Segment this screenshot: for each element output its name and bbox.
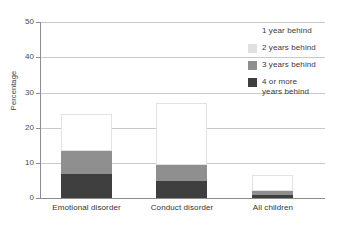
legend-label-4-or-more-years-behind: 4 or more years behind [262,77,309,96]
x-label-emotional-disorder: Emotional disorder [36,203,137,212]
legend-item-2-years-behind: 2 years behind [248,43,316,60]
y-tick-label-0: 0 [12,193,34,202]
legend-label-line1: 4 or more [262,77,297,86]
bar-all-children [252,175,293,198]
bar-segment-4-or-more-years-behind [156,181,207,198]
x-label-all-children: All children [232,203,314,212]
legend-swatch-4-or-more-years-behind [248,78,257,87]
y-tick-label-50: 50 [12,17,34,26]
legend-item-1-year-behind: 1 year behind [248,26,316,43]
bar-segment-1-year-behind [252,175,293,191]
stacked-bar-chart: Percentage 50 40 30 20 10 0 Emotional di… [0,0,337,234]
y-axis-line [40,22,41,198]
bar-segment-3-years-behind [156,165,207,181]
legend-label-line2: years behind [262,87,309,97]
bar-segment-3-years-behind [61,151,112,174]
x-axis-line [40,198,325,199]
legend-swatch-2-years-behind [248,44,257,53]
y-tick-label-30: 30 [12,88,34,97]
legend-label-3-years-behind: 3 years behind [262,60,316,70]
legend-label-1-year-behind: 1 year behind [262,26,312,36]
bar-segment-1-year-behind [156,103,207,165]
legend-label-2-years-behind: 2 years behind [262,43,316,53]
legend-swatch-3-years-behind [248,61,257,70]
x-label-conduct-disorder: Conduct disorder [132,203,232,212]
y-tick-label-20: 20 [12,123,34,132]
legend-item-3-years-behind: 3 years behind [248,60,316,77]
bar-conduct-disorder [156,103,207,198]
bar-emotional-disorder [61,114,112,198]
legend-item-4-or-more-years-behind: 4 or more years behind [248,77,316,94]
gridline-50 [41,22,325,23]
y-tick-label-40: 40 [12,52,34,61]
bar-segment-4-or-more-years-behind [61,174,112,198]
legend-swatch-1-year-behind [248,27,257,36]
y-tick-label-10: 10 [12,158,34,167]
bar-segment-1-year-behind [61,114,112,151]
chart-legend: 1 year behind 2 years behind 3 years beh… [248,26,316,94]
